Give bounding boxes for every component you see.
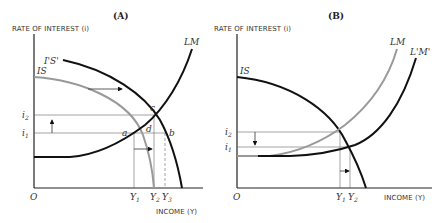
panel-a-point-d: d — [146, 124, 152, 134]
panel-a-y-axis-label: RATE OF INTEREST (i) — [12, 25, 89, 33]
panel-b-lm-label: LM — [389, 37, 406, 47]
islm-diagram: (A) RATE OF INTEREST (i) I'S' IS LM c a … — [0, 0, 447, 223]
panel-b-lm-shifted-label: L'M' — [409, 47, 430, 57]
panel-a-i1-label: i1 — [22, 128, 29, 139]
panel-a-y3-label: Y3 — [162, 192, 172, 203]
panel-a-point-a: a — [122, 128, 127, 138]
panel-b-y2-label: Y2 — [348, 192, 358, 203]
panel-b-is-label: IS — [239, 66, 250, 76]
panel-a-point-b: b — [169, 128, 175, 138]
panel-a-is-label: IS — [36, 66, 47, 76]
panel-b-lm-shifted-curve — [258, 58, 416, 156]
panel-b-i2-label: i2 — [225, 127, 232, 138]
panel-b-origin: O — [233, 192, 241, 202]
panel-a-is-shifted-label: I'S' — [43, 56, 59, 66]
panel-a-y1-label: Y1 — [130, 192, 140, 203]
panel-b-y-axis-label: RATE OF INTEREST (i) — [214, 25, 291, 33]
panel-a-origin: O — [30, 192, 38, 202]
panel-b: (B) RATE OF INTEREST (i) IS LM L'M' i2 i… — [214, 11, 432, 203]
panel-b-lm-curve — [237, 49, 397, 156]
panel-a-i2-label: i2 — [22, 110, 29, 121]
panel-b-i1-label: i1 — [225, 142, 232, 153]
panel-a-is-shifted-curve — [63, 60, 182, 188]
panel-a-point-c: c — [150, 103, 155, 113]
panel-a: (A) RATE OF INTEREST (i) I'S' IS LM c a … — [12, 11, 203, 216]
panel-a-title: (A) — [113, 11, 129, 21]
panel-b-title: (B) — [328, 11, 344, 21]
panel-b-x-axis-label: INCOME (Y) — [384, 194, 425, 202]
panel-b-y1-label: Y1 — [336, 192, 346, 203]
panel-a-y2-label: Y2 — [150, 192, 160, 203]
panel-a-lm-label: LM — [183, 37, 200, 47]
panel-a-x-axis-label: INCOME (Y) — [156, 208, 197, 216]
